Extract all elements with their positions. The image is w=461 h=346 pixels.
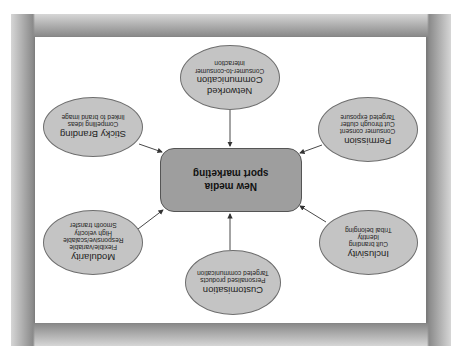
node-modularity: Modularity Flexible/variable Responsive/… [43,210,143,275]
node-title: Customisation [197,285,269,296]
node-inclusivity: Inclusivity Cult branding Identity Triba… [319,210,418,275]
node-line: linked to brand image [60,114,126,121]
node-line: Cut through clutter [340,121,395,128]
arrow-modularity [138,210,163,229]
arrow-permission [300,145,322,153]
arrow-sticky-branding [139,144,162,152]
node-line: Compelling ideas [60,122,126,129]
node-title: Modularity [63,252,123,263]
node-line: Personalised products [197,277,269,284]
node-line: Responsive/scalable [63,237,123,244]
center-title-line2: sport marketing [193,167,269,180]
node-line: Smooth transfer [63,222,123,229]
node-line: Tribal belonging [345,226,392,233]
node-line: Cult branding [345,241,392,248]
node-networked: Networked Communication Consumer-to-cons… [180,45,280,110]
node-title: Inclusivity [345,248,392,259]
node-line: Targeted exposure [340,113,395,120]
node-line: High velocity [63,230,123,237]
node-line: Consumer consent [340,128,395,135]
node-title: Networked [195,85,264,96]
arrow-inclusivity [300,206,326,222]
node-title: Permission [340,135,395,146]
node-line: Consumer-to-consumer [195,67,264,74]
node-sticky-branding: Sticky Branding Compelling ideas linked … [43,97,143,157]
node-line: Targeted communication [197,270,269,277]
center-node: New media sport marketing [160,148,302,212]
node-customisation: Customisation Personalised products Targ… [185,250,281,315]
node-line: interaction [195,60,264,67]
center-title-line1: New media [193,180,269,193]
node-line: Flexible/variable [63,245,123,252]
node-permission: Permission Consumer consent Cut through … [318,97,418,162]
node-title: Sticky Branding [60,129,126,140]
node-title: Communication [195,74,264,85]
